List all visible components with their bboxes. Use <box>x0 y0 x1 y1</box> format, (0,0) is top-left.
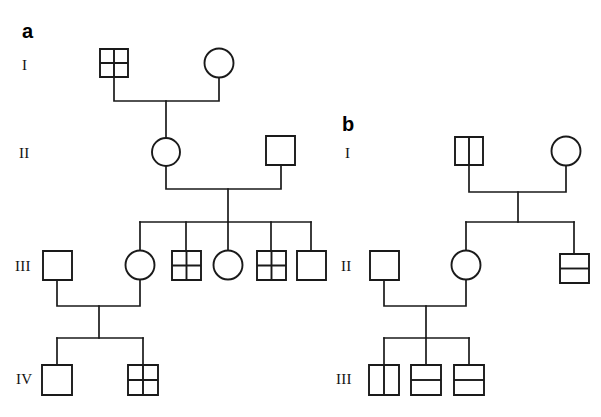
mating-line-a-2 <box>166 166 281 189</box>
circle-symbol[interactable] <box>126 251 155 280</box>
circle-symbol[interactable] <box>152 138 180 166</box>
individual-a-I-2[interactable] <box>205 49 234 78</box>
gen-label-a-III: III <box>15 258 31 274</box>
circle-symbol[interactable] <box>452 251 481 280</box>
panel-a: a I II III IV <box>15 20 326 395</box>
panel-a-connectors <box>57 77 311 365</box>
mating-line-a-3 <box>57 280 140 306</box>
individual-b-II-2[interactable] <box>452 251 481 280</box>
individual-b-I-2[interactable] <box>552 137 581 166</box>
mating-line-a-1 <box>114 77 219 101</box>
panel-b: b I II III <box>336 113 589 395</box>
mating-line-b-1 <box>469 165 566 192</box>
square-symbol[interactable] <box>43 251 72 280</box>
individual-a-III-1[interactable] <box>43 251 72 280</box>
gen-label-a-I: I <box>22 57 27 73</box>
square-symbol[interactable] <box>266 136 295 165</box>
individual-b-I-1[interactable] <box>455 137 483 165</box>
gen-label-b-II: II <box>341 258 352 274</box>
panel-b-generation-labels: I II III <box>336 145 352 387</box>
individual-a-IV-2[interactable] <box>128 365 158 395</box>
individual-a-IV-1[interactable] <box>42 365 72 395</box>
square-symbol[interactable] <box>297 251 326 280</box>
gen-label-b-I: I <box>345 145 350 161</box>
pedigree-figure: a I II III IV <box>0 0 601 417</box>
panel-b-individuals <box>369 137 589 396</box>
individual-a-III-5[interactable] <box>257 251 286 280</box>
panel-a-generation-labels: I II III IV <box>15 57 32 387</box>
gen-label-b-III: III <box>336 371 352 387</box>
pedigree-canvas: a I II III IV <box>0 0 601 417</box>
circle-symbol[interactable] <box>552 137 581 166</box>
individual-a-I-1[interactable] <box>100 49 128 77</box>
gen-label-a-II: II <box>19 145 30 161</box>
circle-symbol[interactable] <box>214 251 243 280</box>
individual-b-III-3[interactable] <box>454 365 484 395</box>
square-symbol[interactable] <box>370 251 399 280</box>
individual-a-III-2[interactable] <box>126 251 155 280</box>
gen-label-a-IV: IV <box>16 371 32 387</box>
mating-line-b-2 <box>384 280 466 306</box>
square-symbol[interactable] <box>42 365 72 395</box>
individual-b-II-1[interactable] <box>370 251 399 280</box>
panel-b-letter: b <box>342 113 354 135</box>
individual-a-II-1[interactable] <box>152 138 180 166</box>
individual-b-II-3[interactable] <box>560 254 589 283</box>
circle-symbol[interactable] <box>205 49 234 78</box>
panel-a-letter: a <box>22 20 34 42</box>
individual-a-III-6[interactable] <box>297 251 326 280</box>
individual-a-III-3[interactable] <box>172 251 201 280</box>
individual-b-III-1[interactable] <box>369 365 399 395</box>
individual-b-III-2[interactable] <box>411 365 441 395</box>
individual-a-III-4[interactable] <box>214 251 243 280</box>
individual-a-II-2[interactable] <box>266 136 295 165</box>
